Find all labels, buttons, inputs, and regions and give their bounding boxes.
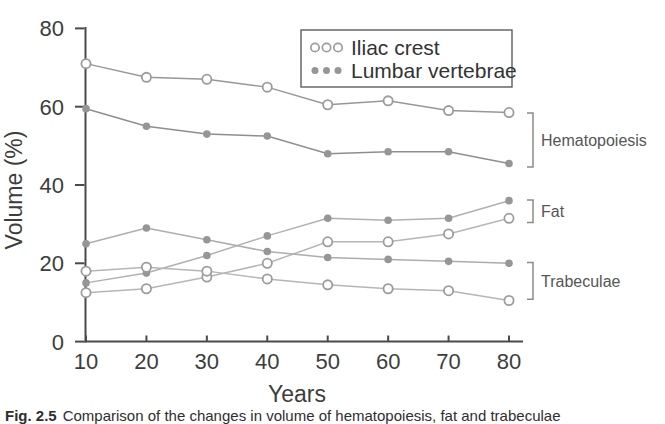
data-series <box>81 59 513 305</box>
x-tick-label: 10 <box>74 349 98 374</box>
x-tick-label: 70 <box>436 349 460 374</box>
group-brackets: HematopoiesisFatTrabeculae <box>527 113 647 299</box>
data-point-open <box>323 280 332 289</box>
data-point-open <box>444 229 453 238</box>
data-point-open <box>384 237 393 246</box>
data-point-filled <box>445 258 453 266</box>
y-tick-label: 40 <box>40 173 64 198</box>
data-point-open <box>263 83 272 92</box>
data-point-open <box>504 214 513 223</box>
legend-marker-filled-circle <box>312 67 319 74</box>
y-tick-label: 80 <box>40 16 64 41</box>
bracket-fat <box>527 200 533 223</box>
data-point-filled <box>445 148 453 156</box>
legend-marker-filled-circle <box>323 67 330 74</box>
bracket-label-hematopoiesis: Hematopoiesis <box>541 132 647 149</box>
data-point-open <box>81 267 90 276</box>
x-tick-label: 50 <box>315 349 339 374</box>
data-point-open <box>384 96 393 105</box>
legend-marker-open-circle <box>311 43 319 51</box>
legend-label-lumbar-vertebrae: Lumbar vertebrae <box>351 59 517 82</box>
legend-label-iliac-crest: Iliac crest <box>351 36 440 59</box>
y-tick-label: 60 <box>40 95 64 120</box>
figure-caption: Fig. 2.5Comparison of the changes in vol… <box>5 407 665 424</box>
data-point-open <box>142 73 151 82</box>
data-point-open <box>142 263 151 272</box>
data-point-open <box>202 75 211 84</box>
legend-marker-open-circle <box>322 43 330 51</box>
data-point-filled <box>82 279 90 287</box>
data-point-open <box>504 108 513 117</box>
data-point-filled <box>324 150 332 158</box>
x-tick-label: 30 <box>195 349 219 374</box>
y-axis-label: Volume (%) <box>1 131 27 250</box>
data-point-open <box>263 259 272 268</box>
x-tick-label: 40 <box>255 349 279 374</box>
data-point-filled <box>263 232 271 240</box>
series-line-hematopoiesis-lumbar-vertebrae <box>86 109 509 164</box>
data-point-filled <box>203 252 211 260</box>
data-point-open <box>444 286 453 295</box>
bracket-hematopoiesis <box>527 113 533 167</box>
data-point-filled <box>263 132 271 140</box>
data-point-filled <box>203 236 211 244</box>
data-point-open <box>263 274 272 283</box>
data-point-open <box>202 267 211 276</box>
figure-caption-text: Comparison of the changes in volume of h… <box>63 407 561 424</box>
data-point-filled <box>82 240 90 248</box>
data-point-filled <box>263 248 271 256</box>
y-tick-label: 0 <box>52 330 64 355</box>
data-point-filled <box>384 216 392 224</box>
data-point-filled <box>505 260 513 268</box>
data-point-open <box>444 106 453 115</box>
bracket-label-trabeculae: Trabeculae <box>541 273 621 290</box>
legend-marker-open-circle <box>334 43 342 51</box>
data-point-filled <box>324 214 332 222</box>
data-point-filled <box>445 214 453 222</box>
data-point-filled <box>384 256 392 264</box>
data-point-open <box>323 237 332 246</box>
data-point-filled <box>143 122 151 130</box>
data-point-open <box>504 296 513 305</box>
figure-caption-number: Fig. 2.5 <box>5 407 57 424</box>
data-point-filled <box>384 148 392 156</box>
x-axis-label: Years <box>268 381 326 407</box>
bracket-label-fat: Fat <box>541 203 565 220</box>
y-tick-label: 20 <box>40 251 64 276</box>
data-point-filled <box>505 197 513 205</box>
bracket-trabeculae <box>527 263 533 300</box>
legend: Iliac crestLumbar vertebrae <box>301 30 517 87</box>
data-point-filled <box>203 130 211 138</box>
legend-marker-filled-circle <box>335 67 342 74</box>
data-point-open <box>142 284 151 293</box>
x-tick-label: 60 <box>376 349 400 374</box>
data-point-filled <box>505 160 513 168</box>
data-point-filled <box>324 254 332 262</box>
data-point-filled <box>143 224 151 232</box>
data-point-filled <box>82 105 90 113</box>
x-tick-label: 80 <box>497 349 521 374</box>
data-point-open <box>323 100 332 109</box>
x-tick-label: 20 <box>134 349 158 374</box>
data-point-open <box>81 59 90 68</box>
data-point-open <box>384 284 393 293</box>
data-point-open <box>81 288 90 297</box>
